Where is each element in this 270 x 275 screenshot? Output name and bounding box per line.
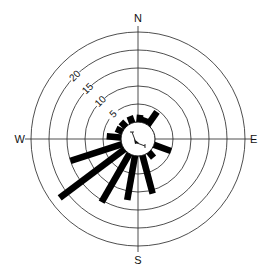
ring-label-20: 20 xyxy=(67,68,83,84)
west-label: W xyxy=(15,133,26,145)
north-label: N xyxy=(134,12,142,24)
south-label: S xyxy=(134,254,141,266)
ring-labels: 5101520 xyxy=(67,68,121,122)
rose-diagram: 5101520 N E S W xyxy=(0,0,270,275)
east-label: E xyxy=(250,133,257,145)
ring-label-10: 10 xyxy=(92,93,108,109)
direction-bars xyxy=(58,110,172,204)
ring-label-15: 15 xyxy=(80,80,96,96)
inner-circle xyxy=(121,122,155,156)
